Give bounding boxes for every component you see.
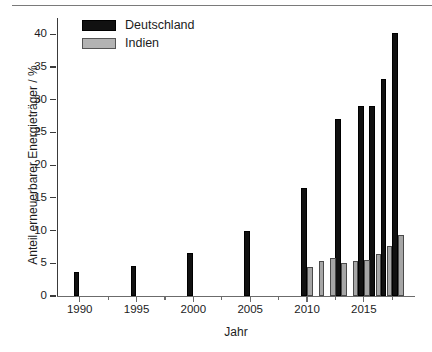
x-minor-tick-mark — [164, 297, 165, 300]
y-tick-mark — [50, 165, 56, 166]
x-tick-label: 2000 — [169, 304, 217, 316]
x-minor-tick-mark — [392, 297, 393, 300]
y-tick-mark — [50, 230, 56, 231]
bar-indien — [364, 260, 370, 296]
bar-indien — [398, 235, 404, 296]
x-tick-label: 1990 — [56, 304, 104, 316]
x-minor-tick-mark — [108, 297, 109, 300]
y-tick-label: 0 — [7, 290, 47, 302]
bar-deutschland — [392, 33, 398, 296]
bar-deutschland — [301, 188, 307, 296]
bar-indien — [376, 254, 382, 296]
x-tick-label: 2010 — [283, 304, 331, 316]
y-tick-label: 40 — [7, 28, 47, 40]
chart-legend: DeutschlandIndien — [82, 17, 232, 53]
bar-deutschland — [335, 119, 341, 296]
bar-indien — [387, 246, 393, 296]
y-tick-mark — [50, 66, 56, 67]
bar-indien — [341, 263, 347, 296]
x-axis-line — [57, 296, 415, 297]
bar-deutschland — [244, 231, 250, 296]
x-tick-mark — [250, 297, 251, 302]
y-axis-title: Anteil erneuerbarer Energieträger / % — [26, 40, 40, 290]
x-tick-label: 2005 — [226, 304, 274, 316]
bar-deutschland — [131, 266, 137, 296]
legend-item-de: Deutschland — [82, 17, 232, 33]
x-tick-mark — [363, 297, 364, 302]
top-divider-rule — [12, 5, 432, 6]
bar-indien — [353, 261, 359, 296]
x-axis-title: Jahr — [57, 325, 415, 339]
bar-deutschland — [187, 253, 193, 296]
x-minor-tick-mark — [221, 297, 222, 300]
y-tick-mark — [50, 295, 56, 296]
bar-deutschland — [369, 106, 375, 296]
x-tick-label: 1995 — [113, 304, 161, 316]
legend-swatch-icon — [82, 38, 116, 49]
y-tick-mark — [50, 34, 56, 35]
x-tick-label: 2015 — [340, 304, 388, 316]
bar-indien — [319, 261, 325, 296]
x-tick-mark — [79, 297, 80, 302]
legend-item-in: Indien — [82, 35, 232, 51]
legend-swatch-icon — [82, 20, 116, 31]
chart-figure: 0510152025303540 Anteil erneuerbarer Ene… — [0, 0, 432, 352]
legend-item-label: Deutschland — [125, 19, 195, 32]
bar-deutschland — [381, 79, 387, 296]
x-tick-mark — [306, 297, 307, 302]
legend-item-label: Indien — [125, 37, 159, 50]
bar-deutschland — [74, 272, 80, 296]
bars-group — [57, 18, 415, 296]
y-tick-mark — [50, 263, 56, 264]
bar-indien — [330, 258, 336, 296]
x-minor-tick-mark — [278, 297, 279, 300]
bar-deutschland — [358, 106, 364, 296]
y-tick-mark — [50, 197, 56, 198]
y-tick-mark — [50, 132, 56, 133]
y-tick-mark — [50, 99, 56, 100]
x-tick-mark — [193, 297, 194, 302]
x-minor-tick-mark — [335, 297, 336, 300]
x-tick-mark — [136, 297, 137, 302]
bar-indien — [307, 267, 313, 296]
